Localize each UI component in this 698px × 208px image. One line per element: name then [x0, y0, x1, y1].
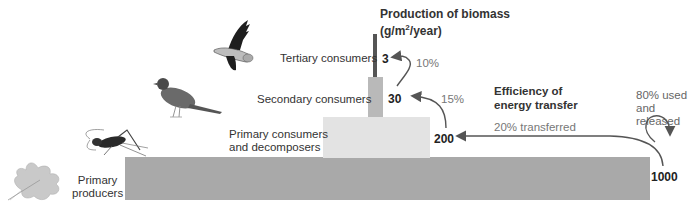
hawk-icon [214, 20, 253, 70]
leaf-icon [8, 163, 59, 200]
cricket-icon [86, 129, 148, 156]
organism-illustrations [0, 0, 698, 208]
songbird-icon [153, 78, 222, 117]
